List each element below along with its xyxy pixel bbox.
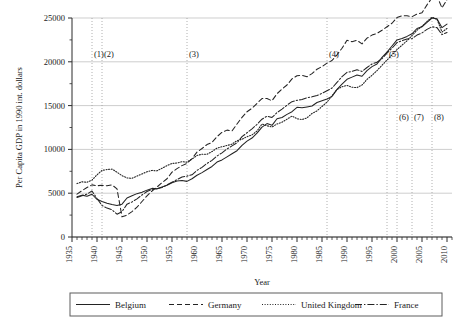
event-label-3: (3) xyxy=(189,49,199,59)
x-tick-label: 1950 xyxy=(139,246,149,263)
event-label-7: (7) xyxy=(414,112,424,122)
x-tick-label: 1940 xyxy=(89,246,99,263)
x-tick-label: 1935 xyxy=(64,246,74,263)
y-tick-label: 20000 xyxy=(44,57,65,67)
event-label-6: (6) xyxy=(399,112,409,122)
event-label-1: (1) xyxy=(94,49,104,59)
y-tick-label: 5000 xyxy=(48,188,65,198)
y-tick-label: 25000 xyxy=(44,13,65,23)
gdp-line-chart: 0500010000150002000025000 19351940194519… xyxy=(0,0,467,327)
x-tick-label: 1985 xyxy=(314,246,324,263)
chart-canvas: 0500010000150002000025000 19351940194519… xyxy=(0,0,467,327)
x-tick-label: 1965 xyxy=(214,246,224,263)
y-tick-label: 10000 xyxy=(44,144,65,154)
x-tick-label: 1990 xyxy=(339,246,349,263)
series-line-belgium xyxy=(77,18,447,205)
x-tick-label: 1975 xyxy=(264,246,274,263)
legend-label-belgium: Belgium xyxy=(115,300,146,310)
x-tick-label: 2000 xyxy=(389,246,399,263)
series-line-united-kingdom xyxy=(77,17,447,183)
event-label-4: (4) xyxy=(329,49,339,59)
x-axis-ticks: 1935194019451950195519601965197019751980… xyxy=(64,237,452,263)
y-tick-label: 15000 xyxy=(44,101,65,111)
x-tick-label: 1960 xyxy=(189,246,199,263)
x-tick-label: 2005 xyxy=(414,246,424,263)
x-tick-label: 2010 xyxy=(439,246,449,263)
event-label-2: (2) xyxy=(104,49,114,59)
event-label-5: (5) xyxy=(389,49,399,59)
series-lines xyxy=(77,0,447,217)
x-tick-label: 1955 xyxy=(164,246,174,263)
legend-label-united-kingdom: United Kingdom xyxy=(301,300,362,310)
y-axis-ticks: 0500010000150002000025000 xyxy=(44,13,72,242)
x-tick-label: 1970 xyxy=(239,246,249,263)
series-line-germany xyxy=(77,0,447,217)
x-tick-label: 1980 xyxy=(289,246,299,263)
y-tick-label: 0 xyxy=(61,232,65,242)
event-label-8: (8) xyxy=(434,112,444,122)
x-tick-label: 1995 xyxy=(364,246,374,263)
legend-label-france: France xyxy=(394,300,419,310)
legend-label-germany: Germany xyxy=(208,300,242,310)
x-axis-title: Year xyxy=(254,277,270,287)
y-axis-title: Per Capita GDP in 1990 int. dollars xyxy=(14,67,24,188)
legend: BelgiumGermanyUnited KingdomFrance xyxy=(70,293,442,316)
x-tick-label: 1945 xyxy=(114,246,124,263)
event-annotations: (1)(2)(3)(4)(5)(6)(7)(8) xyxy=(94,49,444,123)
